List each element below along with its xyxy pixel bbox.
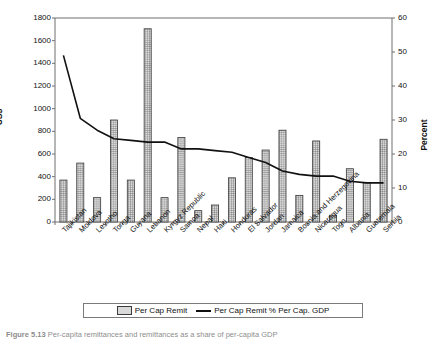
y-tick-label-left: 600 — [20, 149, 51, 158]
y-tick-label-left: 1800 — [20, 13, 51, 22]
y-tick-label-right: 20 — [398, 149, 407, 158]
y-tick-label-right: 40 — [398, 81, 407, 90]
y-tick-label-left: 200 — [20, 194, 51, 203]
y-tick-label-right: 50 — [398, 47, 407, 56]
y-tick-label-left: 1200 — [20, 81, 51, 90]
plot-area — [0, 0, 446, 339]
y-tick-label-left: 1600 — [20, 36, 51, 45]
bar-jamaica — [279, 130, 286, 222]
bar-lebanon — [144, 29, 151, 222]
bar-tajikistan — [60, 180, 67, 222]
chart-figure: US$ Percent Per Cap Remit Per Cap Remit … — [0, 0, 446, 339]
figure-caption-text: Per-capita remittances and remittances a… — [48, 330, 278, 339]
y-tick-label-right: 10 — [398, 183, 407, 192]
y-tick-label-right: 60 — [398, 13, 407, 22]
legend-label-line: Per Cap Remit % Per Cap. GDP — [214, 306, 329, 315]
y-tick-label-left: 0 — [20, 217, 51, 226]
chart-legend: Per Cap Remit Per Cap Remit % Per Cap. G… — [83, 303, 363, 318]
y-tick-label-left: 1400 — [20, 58, 51, 67]
y-tick-label-left: 400 — [20, 172, 51, 181]
bar-swatch-icon — [117, 306, 132, 315]
legend-label-bars: Per Cap Remit — [135, 306, 187, 315]
bar-honduras — [228, 178, 235, 222]
bar-tonga — [110, 120, 117, 222]
y-tick-label-right: 30 — [398, 115, 407, 124]
legend-item-per-cap-remit-pct-gdp: Per Cap Remit % Per Cap. GDP — [196, 306, 329, 315]
y-tick-label-left: 800 — [20, 126, 51, 135]
y-tick-label-left: 1000 — [20, 104, 51, 113]
figure-number: Figure 5.13 — [6, 330, 46, 339]
figure-caption: Figure 5.13 Per-capita remittances and r… — [6, 330, 277, 339]
legend-item-per-cap-remit: Per Cap Remit — [117, 306, 187, 315]
line-swatch-icon — [196, 310, 211, 312]
